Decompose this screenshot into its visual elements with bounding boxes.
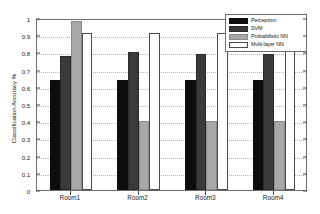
y-axis-tick-label: 0.6 bbox=[22, 84, 30, 91]
legend-swatch-icon bbox=[229, 34, 248, 40]
y-axis-tick-mark-right bbox=[303, 191, 307, 192]
y-axis-tick-mark bbox=[36, 191, 40, 192]
y-axis-tick-mark bbox=[36, 70, 40, 71]
y-axis-tick-label: 1 bbox=[27, 16, 30, 23]
y-axis-tick-mark bbox=[36, 105, 40, 106]
y-axis-tick-mark-right bbox=[303, 87, 307, 88]
x-axis-tick-labels: Room1Room2Room3Room4 bbox=[36, 193, 307, 209]
legend: PerceptronSVMProbabilistic NNMulti-layer… bbox=[225, 14, 307, 52]
legend-item-svm: SVM bbox=[229, 25, 303, 33]
y-axis-tick-label: 0.8 bbox=[22, 50, 30, 57]
x-axis-tick-mark bbox=[205, 191, 206, 195]
y-axis-tick-mark bbox=[36, 53, 40, 54]
y-axis-tick-mark-right bbox=[303, 36, 307, 37]
x-axis-label-room4: Room4 bbox=[263, 194, 284, 201]
legend-swatch-icon bbox=[229, 26, 248, 32]
legend-label: Probabilistic NN bbox=[251, 34, 288, 39]
legend-item-perceptron: Perceptron bbox=[229, 17, 303, 25]
legend-item-multi-layer-nn: Multi-layer NN bbox=[229, 41, 303, 49]
bar-room1-svm bbox=[60, 56, 71, 190]
y-axis-tick-mark bbox=[36, 19, 40, 20]
y-axis-tick-mark bbox=[36, 156, 40, 157]
bar-room2-probabilistic-nn bbox=[139, 121, 150, 190]
bar-room3-multi-layer-nn bbox=[217, 33, 228, 190]
bar-room2-svm bbox=[128, 52, 139, 190]
x-axis-label-room3: Room3 bbox=[195, 194, 216, 201]
bar-room3-svm bbox=[196, 54, 207, 190]
y-axis-tick-label: 0.2 bbox=[22, 153, 30, 160]
bar-room4-perceptron bbox=[253, 80, 264, 190]
plot-area: PerceptronSVMProbabilistic NNMulti-layer… bbox=[36, 19, 307, 191]
bar-room4-probabilistic-nn bbox=[274, 121, 285, 190]
y-axis-tick-mark-right bbox=[303, 139, 307, 140]
y-axis-tick-mark bbox=[36, 173, 40, 174]
y-axis-tick-label: 0.4 bbox=[22, 119, 30, 126]
y-axis-tick-mark bbox=[36, 122, 40, 123]
bar-room1-probabilistic-nn bbox=[71, 21, 82, 190]
bar-room3-perceptron bbox=[185, 80, 196, 190]
y-axis-tick-mark bbox=[36, 87, 40, 88]
y-axis-tick-labels: 00.10.20.30.40.50.60.70.80.91 bbox=[0, 19, 34, 191]
bar-room2-perceptron bbox=[117, 80, 128, 190]
y-axis-tick-mark bbox=[36, 139, 40, 140]
x-axis-tick-mark bbox=[273, 191, 274, 195]
x-axis-label-room2: Room2 bbox=[127, 194, 148, 201]
y-axis-tick-mark-right bbox=[303, 156, 307, 157]
y-axis-tick-mark-right bbox=[303, 53, 307, 54]
y-axis-tick-mark-right bbox=[303, 122, 307, 123]
y-axis-tick-label: 0.3 bbox=[22, 136, 30, 143]
bar-room1-multi-layer-nn bbox=[82, 33, 93, 190]
y-axis-tick-mark-right bbox=[303, 70, 307, 71]
bar-room4-svm bbox=[263, 54, 274, 190]
y-axis-tick-label: 0.7 bbox=[22, 67, 30, 74]
bar-room1-perceptron bbox=[50, 80, 61, 190]
y-axis-tick-mark-right bbox=[303, 173, 307, 174]
legend-swatch-icon bbox=[229, 18, 248, 24]
bar-room3-probabilistic-nn bbox=[206, 121, 217, 190]
bar-room4-multi-layer-nn bbox=[285, 33, 296, 190]
figure-canvas: Classification Accuracy % 00.10.20.30.40… bbox=[0, 0, 320, 214]
legend-label: SVM bbox=[251, 26, 262, 31]
x-axis-tick-mark bbox=[138, 191, 139, 195]
legend-item-probabilistic-nn: Probabilistic NN bbox=[229, 33, 303, 41]
y-axis-tick-mark-right bbox=[303, 19, 307, 20]
y-axis-tick-label: 0.5 bbox=[22, 102, 30, 109]
x-axis-label-room1: Room1 bbox=[60, 194, 81, 201]
legend-swatch-icon bbox=[229, 42, 248, 48]
y-axis-tick-label: 0.1 bbox=[22, 170, 30, 177]
legend-label: Multi-layer NN bbox=[251, 42, 284, 47]
y-axis-tick-label: 0.9 bbox=[22, 33, 30, 40]
legend-label: Perceptron bbox=[251, 18, 276, 23]
y-axis-tick-label: 0 bbox=[27, 188, 30, 195]
x-axis-tick-mark bbox=[70, 191, 71, 195]
bar-room2-multi-layer-nn bbox=[149, 33, 160, 190]
y-axis-tick-mark bbox=[36, 36, 40, 37]
y-axis-tick-mark-right bbox=[303, 105, 307, 106]
